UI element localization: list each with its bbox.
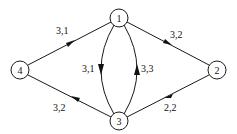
arrowhead-icon bbox=[134, 64, 140, 75]
edge-label-1-3: 3,1 bbox=[82, 63, 95, 74]
edge-3-to-1: 3,3 bbox=[124, 25, 154, 114]
arrowhead-icon bbox=[98, 64, 104, 75]
edge-label-2-3: 2,2 bbox=[164, 102, 177, 113]
node-label: 4 bbox=[18, 65, 23, 76]
node-label: 2 bbox=[215, 65, 220, 76]
edge-label-3-1: 3,3 bbox=[141, 63, 154, 74]
node-1: 1 bbox=[110, 9, 128, 27]
edge-2-to-3: 2,2 bbox=[127, 75, 209, 117]
node-2: 2 bbox=[208, 61, 226, 79]
edge-1-to-2: 3,2 bbox=[127, 22, 209, 65]
arrowhead-icon bbox=[66, 40, 75, 47]
edge-1-to-3: 3,1 bbox=[82, 25, 114, 114]
edge-label-3-4: 3,2 bbox=[53, 102, 66, 113]
edge-label-4-1: 3,1 bbox=[56, 25, 69, 36]
node-label: 3 bbox=[117, 116, 122, 127]
edge-4-to-1: 3,1 bbox=[28, 22, 111, 65]
edge-label-1-2: 3,2 bbox=[170, 29, 183, 40]
node-3: 3 bbox=[110, 112, 128, 130]
graph-diagram: 3,1 3,2 2,2 3,2 3,1 3,3 1 2 3 bbox=[0, 0, 237, 134]
edge-3-to-4: 3,2 bbox=[28, 75, 111, 117]
node-4: 4 bbox=[11, 61, 29, 79]
node-label: 1 bbox=[117, 13, 122, 24]
